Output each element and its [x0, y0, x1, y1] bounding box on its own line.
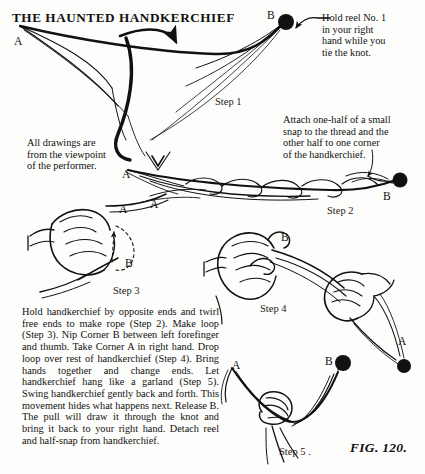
reel-step2 — [393, 173, 408, 188]
figure-caption: FIG. 120. — [350, 440, 407, 456]
step-label-step-4: Step 4 — [260, 303, 287, 314]
note-attach-snap: Attach one-half of a small snap to the t… — [283, 114, 423, 160]
reel-step4 — [397, 359, 411, 373]
step-label-step-2: Step 2 — [327, 205, 354, 216]
illustration-page: THE HAUNTED HANDKERCHIEF Hold reel No. 1… — [0, 0, 425, 474]
corner-a-step2-left: A — [122, 168, 130, 180]
step-3-drawing — [28, 194, 168, 298]
step-4-drawing — [204, 232, 404, 364]
instructions-paragraph: Hold handkerchief by opposite ends and t… — [22, 306, 219, 446]
corner-a-step4: A — [398, 335, 406, 347]
note-hold-reel: Hold reel No. 1 in your right hand while… — [322, 12, 422, 58]
reel-step1 — [278, 14, 294, 30]
corner-b-step4: B — [281, 231, 289, 243]
corner-a-step3: A — [119, 203, 127, 215]
step-label-step-5: Step 5 . — [279, 446, 311, 457]
reel-step5 — [335, 355, 351, 371]
step-label-step-1: Step 1 — [215, 96, 242, 107]
corner-b-step2: B — [383, 190, 391, 202]
page-title: THE HAUNTED HANDKERCHIEF — [12, 10, 235, 25]
corner-b-step1: B — [267, 9, 275, 21]
step-label-step-3: Step 3 — [113, 285, 140, 296]
corner-b-step5: B — [325, 355, 333, 367]
corner-a-step2-inner: A — [150, 198, 158, 210]
corner-a-step5: A — [232, 359, 240, 371]
step-2-hanging-vee — [146, 152, 170, 170]
corner-b-step3: B — [125, 257, 133, 269]
corner-a-step1: A — [14, 35, 22, 47]
note-viewpoint: All drawings are from the viewpoint of t… — [27, 137, 137, 172]
